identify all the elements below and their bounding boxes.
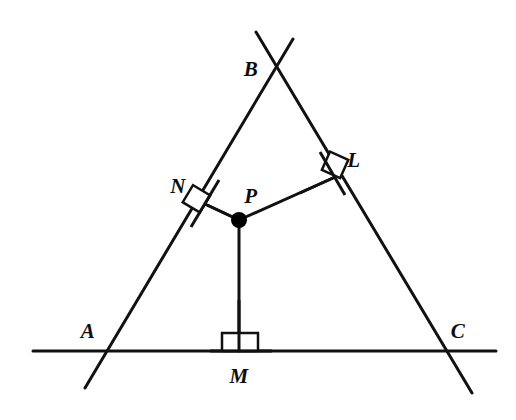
point-p-dot <box>231 212 247 228</box>
line-bc <box>256 32 472 393</box>
label-m: M <box>229 366 248 387</box>
label-c: C <box>451 321 466 342</box>
geometry-figure: A B C L M N P <box>0 0 516 420</box>
label-b: B <box>244 59 259 80</box>
label-a: A <box>81 321 96 342</box>
line-ab <box>85 39 293 388</box>
segment-pl-overlay <box>300 178 333 193</box>
label-l: L <box>347 150 360 171</box>
label-n: N <box>170 176 186 197</box>
label-p: P <box>244 186 257 207</box>
